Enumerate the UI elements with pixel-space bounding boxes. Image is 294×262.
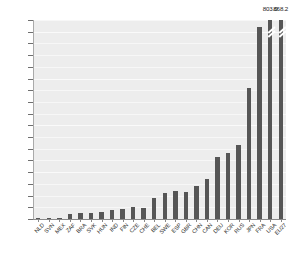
bar-gbr[interactable]: [184, 192, 188, 219]
bar-chn[interactable]: [194, 186, 198, 219]
x-axis-tick-label-fra: FRA: [254, 222, 266, 234]
bar-value-label-eu27: 868.2: [268, 6, 294, 12]
x-axis-tick-label-deu: DEU: [212, 222, 224, 234]
bar-hun[interactable]: [99, 212, 103, 219]
x-axis-tick-label-zaf: ZAF: [65, 222, 77, 234]
x-axis-tick-mark: [217, 219, 218, 222]
y-axis-tick-mark: [28, 43, 33, 44]
x-axis-tick-mark: [59, 219, 60, 222]
x-axis-tick-mark: [102, 219, 103, 222]
bar-fra[interactable]: [257, 27, 261, 219]
x-axis-tick-mark: [38, 219, 39, 222]
y-axis-tick-mark: [28, 207, 33, 208]
x-axis-tick-mark: [196, 219, 197, 222]
gridline: [34, 67, 286, 68]
y-axis-tick-mark: [28, 55, 33, 56]
x-axis-tick-mark: [80, 219, 81, 222]
bar-che[interactable]: [141, 208, 145, 219]
x-axis-tick-mark: [270, 219, 271, 222]
gridline: [34, 32, 286, 33]
x-axis-tick-label-che: CHE: [138, 222, 150, 234]
y-axis-tick-mark: [28, 149, 33, 150]
x-axis-tick-label-gbr: GBR: [180, 222, 193, 235]
y-axis-tick-mark: [28, 172, 33, 173]
bar-esp[interactable]: [173, 191, 177, 219]
axis-break-icon: [279, 28, 283, 37]
x-axis-tick-label-hun: HUN: [96, 222, 109, 235]
bar-swe[interactable]: [163, 193, 167, 219]
bar-can[interactable]: [205, 179, 209, 219]
bar-deu[interactable]: [215, 157, 219, 219]
y-axis-tick-mark: [28, 67, 33, 68]
x-axis-tick-mark: [123, 219, 124, 222]
x-axis-tick-mark: [239, 219, 240, 222]
bar-eu27[interactable]: [279, 20, 283, 220]
bar-chart: 0255075100125150175200225250275300325350…: [0, 0, 294, 262]
x-axis-tick-label-ind: IND: [108, 222, 119, 233]
bar-fin[interactable]: [120, 209, 124, 219]
x-axis-tick-mark: [154, 219, 155, 222]
y-axis-tick-mark: [28, 184, 33, 185]
x-axis-line: [33, 219, 286, 220]
x-axis-tick-mark: [175, 219, 176, 222]
gridline: [34, 79, 286, 80]
y-axis-tick-mark: [28, 32, 33, 33]
y-axis-tick-mark: [28, 114, 33, 115]
x-axis-tick-label-jpn: JPN: [244, 222, 256, 234]
gridline: [34, 55, 286, 56]
y-axis-tick-mark: [28, 20, 33, 21]
x-axis-tick-mark: [228, 219, 229, 222]
y-axis-tick-mark: [28, 196, 33, 197]
x-axis-tick-label-svn: SVN: [43, 222, 55, 234]
gridline: [34, 43, 286, 44]
x-axis-tick-mark: [249, 219, 250, 222]
y-axis-tick-mark: [28, 79, 33, 80]
axis-break-icon: [268, 28, 272, 37]
y-axis-tick-mark: [28, 102, 33, 103]
bar-rus[interactable]: [236, 145, 240, 219]
y-axis: 0255075100125150175200225250275300325350…: [0, 0, 33, 262]
bar-jpn[interactable]: [247, 88, 251, 219]
x-axis-tick-mark: [133, 219, 134, 222]
bar-cze[interactable]: [131, 207, 135, 219]
x-axis-tick-label-fin: FIN: [119, 222, 129, 232]
bar-bel[interactable]: [152, 198, 156, 219]
bar-usa[interactable]: [268, 20, 272, 220]
y-axis-tick-mark: [28, 125, 33, 126]
x-axis-tick-label-can: CAN: [201, 222, 213, 234]
bar-ind[interactable]: [110, 210, 114, 219]
y-axis-tick-mark: [28, 160, 33, 161]
bar-kor[interactable]: [226, 153, 230, 219]
x-axis-tick-mark: [112, 219, 113, 222]
x-axis-tick-label-svk: SVK: [86, 222, 98, 234]
y-axis-tick-mark: [28, 90, 33, 91]
y-axis-tick-mark: [28, 137, 33, 138]
x-axis-tick-label-rus: RUS: [233, 222, 245, 234]
gridline: [34, 20, 286, 21]
